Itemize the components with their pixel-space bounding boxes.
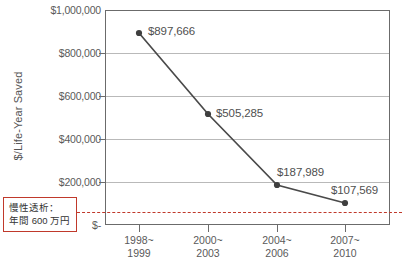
x-tick-label-4-line-2: 2010: [305, 247, 385, 260]
data-point-label-3: $187,989: [277, 166, 324, 178]
threshold-annotation-box: 慢性透析： 年間 600 万円: [3, 197, 77, 232]
y-tick-label-200000: $200,000: [1, 176, 101, 188]
threshold-dashed-line: [72, 212, 402, 213]
chart-screenshot: $/Life-Year Saved $1,000,000 $800,000 $6…: [0, 0, 404, 267]
y-tick-label-1000000: $1,000,000: [1, 4, 101, 16]
data-point-label-2: $505,285: [216, 107, 263, 119]
data-point-label-1: $897,666: [148, 25, 195, 37]
y-tick-label-600000: $600,000: [1, 90, 101, 102]
gridline-400000: [106, 139, 389, 140]
x-tick-label-2-line-2: 2003: [168, 247, 248, 260]
x-tick-label-2: 2000~ 2003: [168, 234, 248, 260]
threshold-annotation-line-1: 慢性透析：: [9, 201, 72, 214]
data-point-label-4: $107,569: [331, 184, 378, 196]
y-tick-label-800000: $800,000: [1, 47, 101, 59]
x-tick-label-4: 2007~ 2010: [305, 234, 385, 260]
x-tick-label-1-line-1: 1998~: [99, 234, 179, 247]
x-tick-mark-2: [208, 225, 209, 232]
x-tick-label-4-line-1: 2007~: [305, 234, 385, 247]
x-tick-mark-3: [277, 225, 278, 232]
x-tick-label-2-line-1: 2000~: [168, 234, 248, 247]
y-tick-label-400000: $400,000: [1, 133, 101, 145]
threshold-annotation-line-2: 年間 600 万円: [9, 214, 72, 227]
gridline-600000: [106, 96, 389, 97]
gridline-800000: [106, 53, 389, 54]
x-tick-label-1: 1998~ 1999: [99, 234, 179, 260]
gridline-200000: [106, 182, 389, 183]
x-tick-label-1-line-2: 1999: [99, 247, 179, 260]
x-tick-mark-4: [345, 225, 346, 232]
x-tick-mark-1: [139, 225, 140, 232]
